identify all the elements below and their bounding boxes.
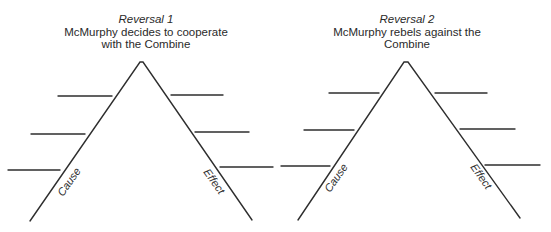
cause-effect-diagrams: Cause Effect Cause Effect: [0, 0, 551, 232]
reversal-2-diagram: Cause Effect: [281, 62, 540, 220]
reversal-2-peak: [298, 62, 520, 220]
reversal-1-effect-label: Effect: [201, 166, 228, 197]
reversal-1-diagram: Cause Effect: [8, 62, 273, 221]
